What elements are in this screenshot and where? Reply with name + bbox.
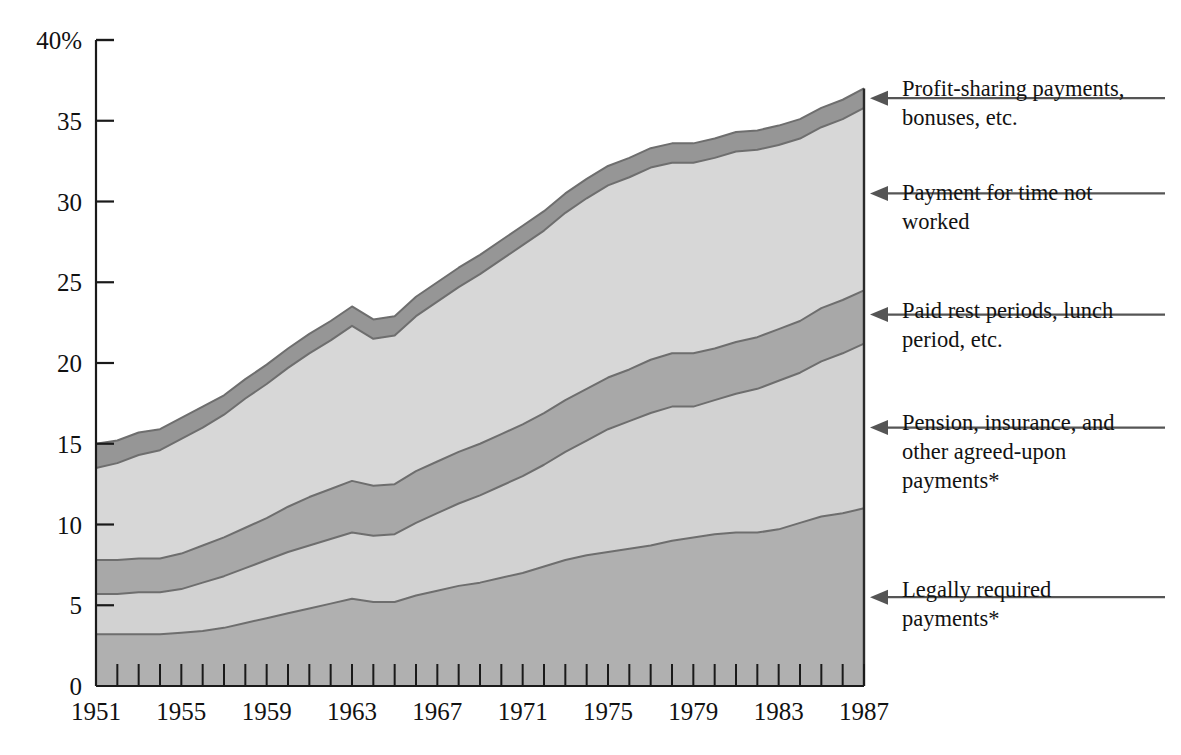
y-tick-label-20: 20 [57, 350, 82, 377]
x-tick-label-1963: 1963 [327, 698, 377, 725]
y-tick-label-5: 5 [70, 592, 83, 619]
y-tick-label-15: 15 [57, 431, 82, 458]
x-tick-label-1955: 1955 [156, 698, 206, 725]
x-tick-label-1959: 1959 [242, 698, 292, 725]
y-tick-label-30: 30 [57, 189, 82, 216]
annotation-label-pension-insurance-line-2: payments* [902, 468, 999, 493]
annotation-label-pension-insurance-line-0: Pension, insurance, and [902, 410, 1114, 435]
y-tick-label-25: 25 [57, 269, 82, 296]
y-tick-label-35: 35 [57, 108, 82, 135]
y-tick-label-10: 10 [57, 512, 82, 539]
annotation-label-time-not-worked-line-1: worked [902, 209, 969, 234]
x-tick-label-1979: 1979 [668, 698, 718, 725]
x-tick-label-1987: 1987 [839, 698, 889, 725]
annotation-label-legally-required-line-0: Legally required [902, 577, 1051, 602]
x-tick-label-1971: 1971 [498, 698, 548, 725]
annotation-label-time-not-worked-line-0: Payment for time not [902, 180, 1093, 205]
y-tick-label-0: 0 [70, 673, 83, 700]
x-tick-label-1951: 1951 [71, 698, 121, 725]
annotation-label-pension-insurance-line-1: other agreed-upon [902, 439, 1066, 464]
x-tick-label-1967: 1967 [412, 698, 462, 725]
annotation-label-paid-rest-periods-line-1: period, etc. [902, 327, 1003, 352]
annotation-label-profit-sharing-line-0: Profit-sharing payments, [902, 76, 1124, 101]
stacked-area-chart: 0510152025303540% 1951195519591963196719… [0, 0, 1181, 755]
chart-figure: 0510152025303540% 1951195519591963196719… [0, 0, 1181, 755]
x-tick-label-1983: 1983 [754, 698, 804, 725]
x-tick-label-1975: 1975 [583, 698, 633, 725]
annotation-label-legally-required-line-1: payments* [902, 606, 999, 631]
annotation-label-paid-rest-periods-line-0: Paid rest periods, lunch [902, 298, 1113, 323]
annotation-label-profit-sharing-line-1: bonuses, etc. [902, 105, 1018, 130]
y-tick-label-40pct: 40% [36, 27, 82, 54]
